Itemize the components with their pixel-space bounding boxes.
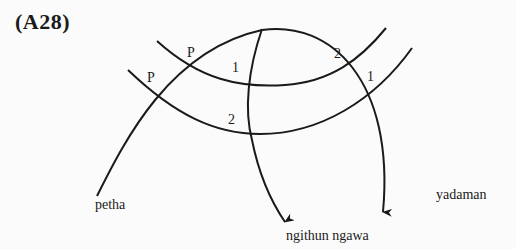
crossing-label-right-2: 2 [334, 46, 341, 61]
crossing-label-p-lower: P [147, 70, 155, 85]
node-petha: petha [95, 197, 125, 213]
node-ngithun-ngawa: ngithun ngawa [286, 228, 369, 244]
lower-arc-line [128, 48, 412, 134]
crossing-label-left-2: 2 [228, 112, 235, 127]
crossing-label-right-1: 1 [367, 69, 374, 84]
kinship-diagram: P P 1 2 2 1 [0, 0, 516, 249]
crossing-label-p-upper: P [187, 45, 195, 60]
crossing-label-left-1: 1 [232, 60, 239, 75]
node-yadaman: yadaman [436, 187, 487, 203]
middle-descent-line [248, 29, 285, 222]
outer-arc-line [97, 29, 384, 212]
